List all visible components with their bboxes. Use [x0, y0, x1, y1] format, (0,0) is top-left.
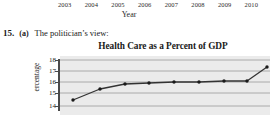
axis-tick-label: 2009	[218, 0, 231, 9]
data-point	[172, 80, 175, 83]
previous-figure-axis: 2003 2004 2005 2006 2007 2008 2009 2010 …	[0, 0, 270, 22]
question-line: 15. (a) The politician’s view:	[3, 27, 109, 40]
data-line	[73, 67, 267, 100]
y-axis-label-text: ercentage	[32, 58, 42, 97]
data-point	[98, 87, 101, 90]
question-number: 15.	[3, 27, 14, 39]
axis-tick-label: 2004	[85, 0, 98, 9]
data-point	[123, 82, 126, 85]
data-point	[245, 79, 248, 82]
axis-tick-label: 2008	[191, 0, 204, 9]
line-chart-svg	[60, 56, 270, 115]
axis-tick-label: 2005	[111, 0, 124, 9]
axis-tick-label: 2006	[138, 0, 151, 9]
y-axis-label: ercentage	[31, 58, 43, 115]
data-point	[71, 98, 74, 101]
data-point	[222, 79, 225, 82]
axis-tick-label: 2010	[245, 0, 258, 9]
data-point	[147, 81, 150, 84]
data-point	[265, 65, 268, 68]
chart-figure: Health Care as a Percent of GDP ercentag…	[0, 40, 270, 115]
axis-tick-label: 2003	[58, 0, 71, 9]
axis-tick-label: 2007	[165, 0, 178, 9]
previous-figure-axis-ticks: 2003 2004 2005 2006 2007 2008 2009 2010	[58, 0, 258, 9]
chart-title: Health Care as a Percent of GDP	[60, 40, 270, 53]
question-part-label: (a)	[19, 28, 28, 40]
data-point	[197, 80, 200, 83]
question-text: The politician’s view:	[35, 27, 109, 39]
plot-area	[60, 56, 270, 115]
chart-body: ercentage 18 17 16 15 14	[0, 56, 270, 115]
previous-figure-axis-title: Year	[0, 9, 270, 20]
